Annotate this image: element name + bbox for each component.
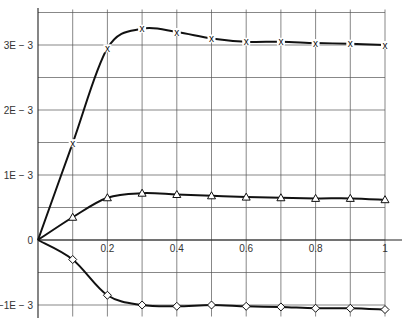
x-marker: x: [209, 33, 214, 44]
y-tick-label: −1E − 3: [0, 300, 33, 311]
triangle-marker: [69, 213, 77, 220]
diamond-marker: [208, 301, 216, 309]
x-tick-label: 0.8: [309, 243, 323, 254]
x-marker: x: [278, 36, 283, 47]
axes: [38, 8, 402, 318]
x-marker: x: [313, 38, 318, 49]
grid: [38, 10, 385, 317]
x-marker: x: [348, 38, 353, 49]
diamond-marker: [381, 306, 389, 314]
x-marker: x: [70, 138, 75, 149]
x-marker: x: [383, 40, 388, 51]
line-chart: 0.20.40.60.813E − 32E − 31E − 30−1E − 3 …: [0, 0, 406, 324]
diamond-marker: [173, 302, 181, 310]
x-tick-label: 0.6: [239, 243, 253, 254]
x-tick-label: 0.4: [170, 243, 184, 254]
y-tick-label: 0: [27, 235, 33, 246]
x-marker: x: [174, 27, 179, 38]
diamond-marker: [277, 303, 285, 311]
x-tick-label: 0.2: [100, 243, 114, 254]
tick-labels: 0.20.40.60.813E − 32E − 31E − 30−1E − 3: [0, 40, 388, 311]
diamond-marker: [312, 304, 320, 312]
x-marker: x: [244, 36, 249, 47]
y-tick-label: 2E − 3: [4, 105, 34, 116]
diamond-marker: [346, 304, 354, 312]
x-marker: x: [140, 23, 145, 34]
x-tick-label: 1: [382, 243, 388, 254]
y-tick-label: 1E − 3: [4, 170, 34, 181]
y-tick-label: 3E − 3: [4, 40, 34, 51]
x-marker: x: [105, 43, 110, 54]
diamond-marker: [138, 301, 146, 309]
series-group: xxxxxxxxxx: [38, 23, 389, 313]
diamond-marker: [242, 302, 250, 310]
